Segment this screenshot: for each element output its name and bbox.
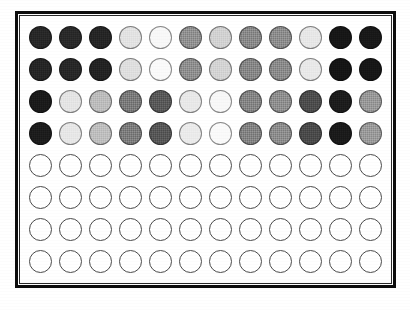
well-B12[interactable] xyxy=(359,58,382,81)
well-D2[interactable] xyxy=(59,122,82,145)
well-E12[interactable] xyxy=(359,154,382,177)
well-H9[interactable] xyxy=(269,250,292,273)
well-H1[interactable] xyxy=(29,250,52,273)
well-H8[interactable] xyxy=(239,250,262,273)
well-D11[interactable] xyxy=(329,122,352,145)
well-B7[interactable] xyxy=(209,58,232,81)
well-D7[interactable] xyxy=(209,122,232,145)
well-B8[interactable] xyxy=(239,58,262,81)
well-F1[interactable] xyxy=(29,186,52,209)
well-A11[interactable] xyxy=(329,26,352,49)
well-F12[interactable] xyxy=(359,186,382,209)
well-H7[interactable] xyxy=(209,250,232,273)
well-E7[interactable] xyxy=(209,154,232,177)
well-G12[interactable] xyxy=(359,218,382,241)
well-B4[interactable] xyxy=(119,58,142,81)
well-E3[interactable] xyxy=(89,154,112,177)
well-F7[interactable] xyxy=(209,186,232,209)
well-G7[interactable] xyxy=(209,218,232,241)
well-G2[interactable] xyxy=(59,218,82,241)
well-A12[interactable] xyxy=(359,26,382,49)
well-D3[interactable] xyxy=(89,122,112,145)
well-G8[interactable] xyxy=(239,218,262,241)
well-A5[interactable] xyxy=(149,26,172,49)
well-G5[interactable] xyxy=(149,218,172,241)
well-A4[interactable] xyxy=(119,26,142,49)
well-C9[interactable] xyxy=(269,90,292,113)
well-E4[interactable] xyxy=(119,154,142,177)
well-G6[interactable] xyxy=(179,218,202,241)
well-E5[interactable] xyxy=(149,154,172,177)
well-C6[interactable] xyxy=(179,90,202,113)
well-F5[interactable] xyxy=(149,186,172,209)
well-F4[interactable] xyxy=(119,186,142,209)
well-A3[interactable] xyxy=(89,26,112,49)
well-A10[interactable] xyxy=(299,26,322,49)
well-A9[interactable] xyxy=(269,26,292,49)
well-H6[interactable] xyxy=(179,250,202,273)
well-E10[interactable] xyxy=(299,154,322,177)
well-F2[interactable] xyxy=(59,186,82,209)
well-F9[interactable] xyxy=(269,186,292,209)
well-F6[interactable] xyxy=(179,186,202,209)
well-C8[interactable] xyxy=(239,90,262,113)
well-cell xyxy=(26,181,56,213)
well-H3[interactable] xyxy=(89,250,112,273)
well-F3[interactable] xyxy=(89,186,112,209)
well-H4[interactable] xyxy=(119,250,142,273)
well-A2[interactable] xyxy=(59,26,82,49)
well-E2[interactable] xyxy=(59,154,82,177)
well-D6[interactable] xyxy=(179,122,202,145)
well-D4[interactable] xyxy=(119,122,142,145)
well-A8[interactable] xyxy=(239,26,262,49)
well-C10[interactable] xyxy=(299,90,322,113)
well-D1[interactable] xyxy=(29,122,52,145)
well-B3[interactable] xyxy=(89,58,112,81)
well-C11[interactable] xyxy=(329,90,352,113)
well-E11[interactable] xyxy=(329,154,352,177)
well-H2[interactable] xyxy=(59,250,82,273)
well-E9[interactable] xyxy=(269,154,292,177)
well-E1[interactable] xyxy=(29,154,52,177)
well-H10[interactable] xyxy=(299,250,322,273)
well-A1[interactable] xyxy=(29,26,52,49)
well-F11[interactable] xyxy=(329,186,352,209)
well-B10[interactable] xyxy=(299,58,322,81)
well-C2[interactable] xyxy=(59,90,82,113)
well-D12[interactable] xyxy=(359,122,382,145)
well-C12[interactable] xyxy=(359,90,382,113)
well-cell xyxy=(235,117,265,149)
well-E8[interactable] xyxy=(239,154,262,177)
well-G1[interactable] xyxy=(29,218,52,241)
well-G11[interactable] xyxy=(329,218,352,241)
well-D10[interactable] xyxy=(299,122,322,145)
well-C1[interactable] xyxy=(29,90,52,113)
well-E6[interactable] xyxy=(179,154,202,177)
well-C3[interactable] xyxy=(89,90,112,113)
well-G3[interactable] xyxy=(89,218,112,241)
well-G9[interactable] xyxy=(269,218,292,241)
well-C5[interactable] xyxy=(149,90,172,113)
well-A7[interactable] xyxy=(209,26,232,49)
well-D5[interactable] xyxy=(149,122,172,145)
well-C4[interactable] xyxy=(119,90,142,113)
well-B5[interactable] xyxy=(149,58,172,81)
well-cell xyxy=(56,21,86,53)
well-H5[interactable] xyxy=(149,250,172,273)
well-B6[interactable] xyxy=(179,58,202,81)
well-G10[interactable] xyxy=(299,218,322,241)
well-F10[interactable] xyxy=(299,186,322,209)
well-B9[interactable] xyxy=(269,58,292,81)
well-B1[interactable] xyxy=(29,58,52,81)
well-G4[interactable] xyxy=(119,218,142,241)
well-A6[interactable] xyxy=(179,26,202,49)
well-H11[interactable] xyxy=(329,250,352,273)
well-cell xyxy=(235,181,265,213)
well-H12[interactable] xyxy=(359,250,382,273)
well-D9[interactable] xyxy=(269,122,292,145)
well-B2[interactable] xyxy=(59,58,82,81)
well-B11[interactable] xyxy=(329,58,352,81)
well-D8[interactable] xyxy=(239,122,262,145)
well-C7[interactable] xyxy=(209,90,232,113)
well-F8[interactable] xyxy=(239,186,262,209)
